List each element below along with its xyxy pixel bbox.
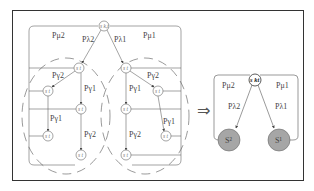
- node-label-skt-bold: s kt: [249, 76, 259, 83]
- node-label: s t: [163, 133, 169, 139]
- node-label: s t: [76, 65, 82, 71]
- label-pmu1-right: Pμ1: [276, 81, 289, 90]
- transform-arrow-icon: ⇒: [197, 101, 210, 120]
- node-label-S1: S¹: [275, 136, 282, 145]
- node-label-skt: s k,t: [100, 23, 109, 29]
- node-label: s t: [123, 106, 129, 112]
- node-label: s t: [45, 133, 51, 139]
- right-cluster-ellipse: [101, 58, 189, 174]
- diagram-canvas: Pμ2 Pμ1 Pλ2 Pλ1 Pγ2 Pγ1 Pγ1 Pγ2 Pγ2 Pγ1 …: [0, 0, 314, 191]
- label-plam1-right: Pλ1: [275, 102, 287, 111]
- label-pmu1-left: Pμ1: [143, 31, 156, 40]
- node-label: s t: [155, 88, 161, 94]
- label-pg2-r4: Pγ2: [129, 130, 141, 139]
- label-pg1-r2: Pγ1: [129, 84, 141, 93]
- label-pmu2-right: Pμ2: [222, 81, 235, 90]
- label-pg2-l4: Pγ2: [84, 130, 96, 139]
- label-pg1-l2: Pγ1: [84, 84, 96, 93]
- label-pmu2-left: Pμ2: [52, 31, 65, 40]
- label-plam2-left: Pλ2: [82, 35, 94, 44]
- label-plam2-right: Pλ2: [228, 102, 240, 111]
- left-cluster-ellipse: [22, 58, 110, 174]
- node-label: s t: [45, 88, 51, 94]
- node-label: s t: [123, 65, 129, 71]
- label-pg1-l3: Pγ1: [50, 114, 62, 123]
- label-pg2-r1: Pγ2: [147, 71, 159, 80]
- label-plam1-left: Pλ1: [114, 35, 126, 44]
- label-pg1-r3: Pγ1: [163, 117, 175, 126]
- node-label-S2: S²: [225, 136, 232, 145]
- node-label: s t: [78, 106, 84, 112]
- label-pg2-l1: Pγ2: [52, 71, 64, 80]
- left-model: [22, 21, 189, 174]
- node-label: s t: [78, 152, 84, 158]
- node-label: s t: [123, 152, 129, 158]
